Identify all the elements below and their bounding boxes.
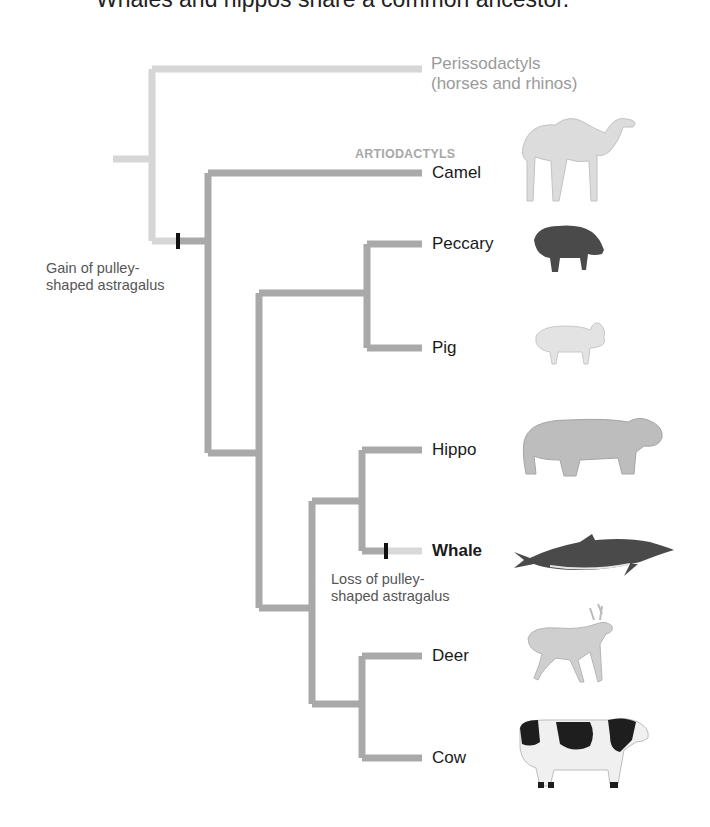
taxon-pig: Pig: [432, 338, 457, 358]
taxon-deer: Deer: [432, 646, 469, 666]
artiodactyl-branches: [180, 173, 422, 758]
outgroup-label: Perissodactyls (horses and rhinos): [431, 54, 577, 94]
whale-icon: [510, 532, 675, 580]
gain-annotation: Gain of pulley- shaped astragalus: [46, 260, 165, 294]
cow-icon: [514, 712, 654, 797]
taxon-peccary: Peccary: [432, 234, 493, 254]
loss-marker: [384, 543, 388, 559]
peccary-icon: [530, 222, 610, 277]
pig-icon: [530, 318, 610, 373]
camel-icon: [515, 105, 645, 205]
taxon-cow: Cow: [432, 748, 466, 768]
loss-annotation: Loss of pulley- shaped astragalus: [331, 571, 450, 605]
deer-icon: [518, 600, 628, 695]
taxon-hippo: Hippo: [432, 440, 476, 460]
gain-marker: [176, 233, 180, 249]
taxon-camel: Camel: [432, 163, 481, 183]
artiodactyls-label: ARTIODACTYLS: [355, 147, 455, 161]
taxon-whale: Whale: [432, 541, 482, 561]
hippo-icon: [518, 412, 668, 487]
